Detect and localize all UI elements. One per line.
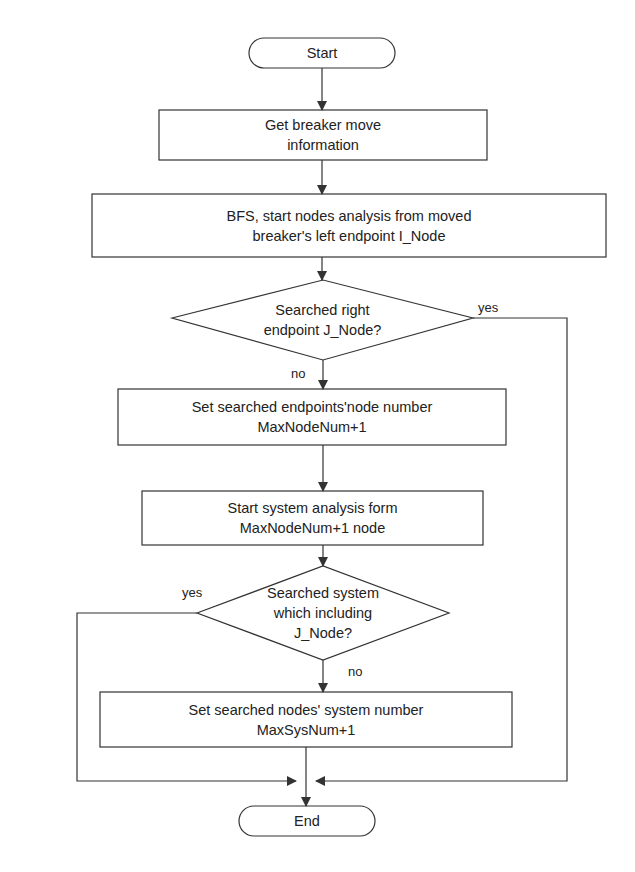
set-sys-label: Set searched nodes' system numberMaxSysN…	[100, 692, 512, 747]
bfs-label: BFS, start nodes analysis from movedbrea…	[92, 194, 606, 257]
decision1-yes-label: yes	[478, 300, 498, 315]
decision2-yes-label: yes	[182, 585, 202, 600]
decision2-label: Searched systemwhich includingJ_Node?	[197, 566, 449, 660]
start-label: Start	[249, 38, 395, 68]
decision1-no-label: no	[291, 366, 305, 381]
end-label: End	[239, 806, 375, 836]
decision1-label: Searched rightendpoint J_Node?	[172, 280, 473, 360]
decision2-no-label: no	[348, 664, 362, 679]
get-info-label: Get breaker moveinformation	[159, 110, 487, 160]
set-node-label: Set searched endpoints'node numberMaxNod…	[118, 389, 506, 445]
sys-analysis-label: Start system analysis formMaxNodeNum+1 n…	[142, 491, 483, 545]
